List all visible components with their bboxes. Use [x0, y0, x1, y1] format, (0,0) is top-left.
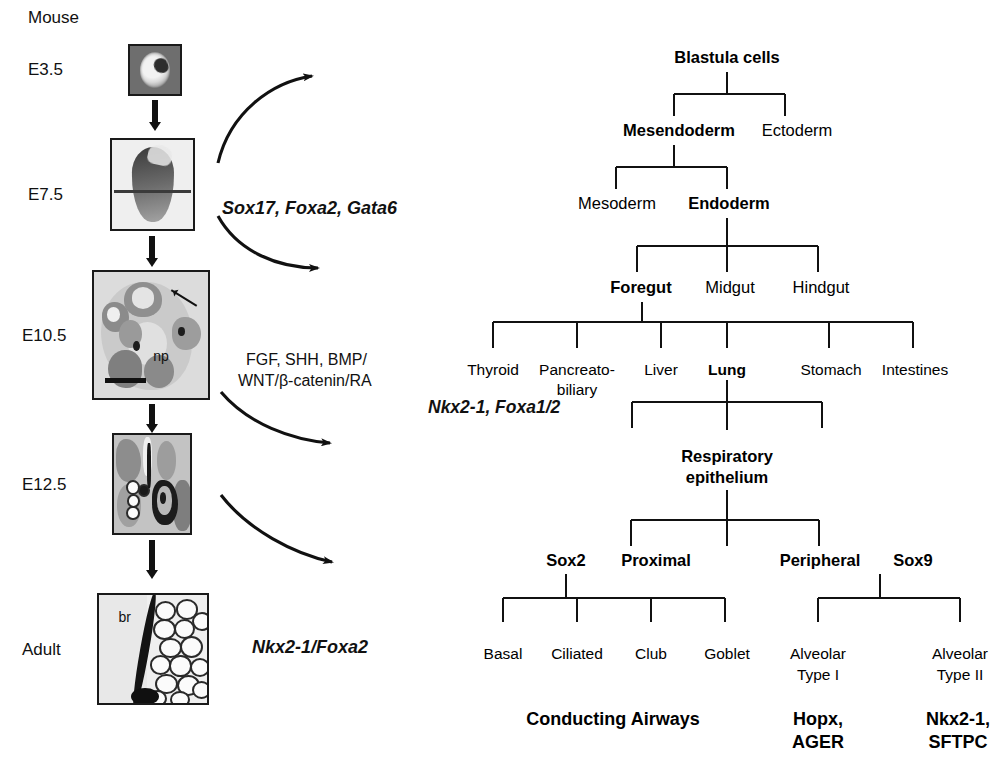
stage-label-e105: E10.5 — [22, 326, 66, 345]
node-liver: Liver — [644, 361, 678, 379]
figure-root: Mouse E3.5 E7.5 E10.5 E12.5 Adult — [0, 0, 993, 766]
curve-arrow-4 — [221, 495, 332, 562]
micrograph-adult-lung: br — [97, 593, 209, 705]
node-lung: Lung — [708, 361, 746, 379]
node-respiratory-epithelium-line1: Respiratory — [681, 447, 773, 466]
stage-label-adult: Adult — [22, 640, 61, 659]
annotation-adult-tfs: Nkx2-1/Foxa2 — [252, 637, 368, 657]
annotation-patterning-line1: FGF, SHH, BMP/ — [246, 351, 367, 369]
node-pancreatobiliary-line1: Pancreato- — [539, 361, 615, 379]
node-midgut: Midgut — [705, 278, 755, 297]
node-pancreatobiliary-line2: biliary — [557, 381, 597, 399]
curve-arrow-2 — [218, 216, 318, 268]
node-mesendoderm: Mesendoderm — [623, 121, 735, 140]
outcome-sftpc-line1: Nkx2-1, — [926, 709, 990, 730]
section-plane-line — [114, 190, 190, 193]
node-intestines: Intestines — [882, 361, 948, 379]
curve-arrow-1 — [218, 76, 312, 163]
micrograph-e35-blastocyst — [128, 44, 182, 96]
scale-bar — [105, 378, 146, 383]
node-respiratory-epithelium-line2: epithelium — [686, 468, 769, 487]
node-alveolar-type-ii-line2: Type II — [937, 666, 984, 684]
node-hindgut: Hindgut — [793, 278, 850, 297]
stage-label-e125: E12.5 — [22, 475, 66, 494]
annotation-lung-tfs: Nkx2-1, Foxa1/2 — [428, 398, 560, 418]
annotation-patterning-line2: WNT/β-catenin/RA — [238, 372, 372, 390]
curve-arrow-3 — [221, 392, 330, 443]
panel-caption-br: br — [118, 609, 130, 625]
node-club: Club — [635, 645, 667, 663]
stage-label-e75: E7.5 — [28, 185, 63, 204]
species-label: Mouse — [28, 8, 79, 27]
node-peripheral: Peripheral — [780, 551, 861, 570]
annotation-endoderm-tfs: Sox17, Foxa2, Gata6 — [222, 198, 397, 218]
node-ectoderm: Ectoderm — [762, 121, 833, 140]
node-ciliated: Ciliated — [551, 645, 603, 663]
arrow-e125-to-adult — [146, 540, 158, 582]
outcome-sftpc-line2: SFTPC — [928, 732, 987, 753]
outcome-hopx-line1: Hopx, — [793, 709, 843, 730]
arrow-e75-to-e105 — [146, 236, 158, 268]
arrow-e35-to-e75 — [149, 100, 161, 132]
micrograph-e105-section: np — [92, 270, 210, 400]
node-blastula-cells: Blastula cells — [674, 48, 779, 67]
branching-tissue — [114, 435, 190, 533]
node-stomach: Stomach — [800, 361, 861, 379]
node-basal: Basal — [484, 645, 523, 663]
node-goblet: Goblet — [704, 645, 750, 663]
outcome-hopx-line2: AGER — [792, 732, 844, 753]
micrograph-e75-embryo — [110, 138, 195, 231]
node-thyroid: Thyroid — [467, 361, 519, 379]
section-tissue — [94, 272, 208, 398]
micrograph-e125-lung — [112, 433, 192, 535]
node-mesoderm: Mesoderm — [578, 194, 656, 213]
node-alveolar-type-i-line2: Type I — [797, 666, 839, 684]
node-proximal: Proximal — [621, 551, 691, 570]
marker-sox2: Sox2 — [546, 551, 585, 570]
inner-cell-mass — [152, 57, 169, 75]
blastocyst-shape — [140, 52, 170, 88]
node-alveolar-type-i-line1: Alveolar — [790, 645, 846, 663]
outcome-conducting-airways: Conducting Airways — [526, 709, 699, 730]
node-alveolar-type-ii-line1: Alveolar — [932, 645, 988, 663]
marker-sox9: Sox9 — [893, 551, 932, 570]
node-foregut: Foregut — [610, 278, 671, 297]
node-endoderm: Endoderm — [688, 194, 770, 213]
panel-caption-np: np — [153, 348, 169, 364]
arrow-e105-to-e125 — [146, 404, 158, 434]
alveolar-tissue — [99, 595, 207, 703]
stage-label-e35: E3.5 — [28, 60, 63, 79]
